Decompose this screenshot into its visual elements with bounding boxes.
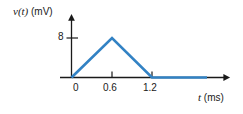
- y-axis-label: v(t) (mV): [13, 6, 53, 17]
- x-tick-label-1_2: 1.2: [143, 83, 157, 93]
- waveform-figure: v(t) (mV) t (ms) 8 0 0.6 1.2: [0, 0, 243, 114]
- waveform-trace: [72, 38, 208, 78]
- x-tick-label-0_6: 0.6: [103, 83, 117, 93]
- x-axis-label: t (ms): [198, 92, 224, 103]
- x-tick-label-0: 0: [73, 83, 79, 93]
- y-tick-label-8: 8: [58, 32, 64, 42]
